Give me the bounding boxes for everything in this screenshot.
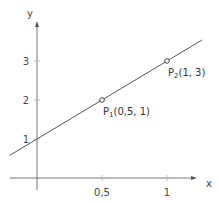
point-p2 xyxy=(165,59,170,64)
point-p1-label: P1(0,5, 1) xyxy=(103,106,150,119)
point-p1 xyxy=(100,98,105,103)
y-axis-arrow-icon xyxy=(35,21,39,27)
y-tick-label: 2 xyxy=(23,95,29,106)
x-axis-label: x xyxy=(206,178,212,189)
x-axis-arrow-icon xyxy=(191,176,197,180)
x-tick-label: 0,5 xyxy=(94,187,110,198)
y-axis-label: y xyxy=(27,8,33,19)
point-p2-label: P2(1, 3) xyxy=(168,67,205,80)
y-tick-label: 1 xyxy=(23,134,29,145)
x-tick-label: 1 xyxy=(164,187,170,198)
series-line xyxy=(10,40,202,155)
y-tick-label: 3 xyxy=(23,56,29,67)
coordinate-chart: x y 0,51123 P1(0,5, 1)P2(1, 3) xyxy=(0,0,219,203)
